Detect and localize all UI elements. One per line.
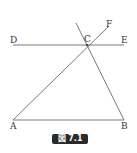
label-d: D	[10, 36, 17, 45]
label-e: E	[121, 36, 128, 45]
label-f: F	[106, 20, 112, 29]
label-a: A	[10, 122, 17, 131]
line-af	[13, 27, 108, 120]
figure-lines	[0, 0, 137, 153]
label-b: B	[121, 122, 128, 131]
label-c: C	[84, 35, 91, 44]
geometry-figure: D C E F A B 図 7.1	[0, 0, 137, 153]
point-c-dot	[86, 44, 88, 46]
figure-caption: 図 7.1	[52, 134, 88, 144]
